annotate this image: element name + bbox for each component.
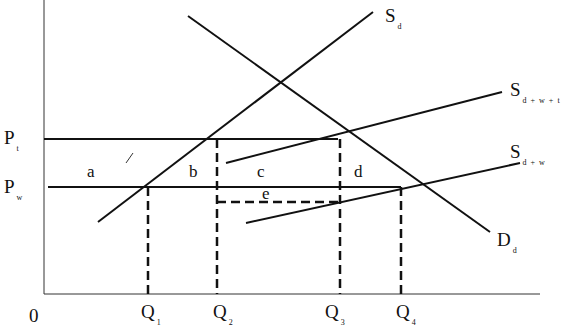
area-label-b: b bbox=[189, 163, 198, 180]
area-label-a: a bbox=[87, 163, 95, 180]
label-q4: Q4 bbox=[396, 302, 417, 321]
tariff-diagram: Sd Sd + w + t Sd + w Dd Pt Pw 0 Q1 Q2 Q3… bbox=[0, 0, 562, 327]
area-label-d: d bbox=[354, 163, 363, 180]
curve-supply-dwt bbox=[226, 92, 502, 163]
label-origin: 0 bbox=[29, 306, 39, 325]
label-q1: Q1 bbox=[141, 302, 162, 321]
stray-mark bbox=[126, 153, 133, 163]
curve-supply-dw bbox=[246, 163, 520, 223]
label-pw: Pw bbox=[4, 177, 23, 196]
area-label-c: c bbox=[257, 163, 265, 180]
curve-domestic-supply bbox=[98, 12, 373, 222]
label-supply-dw: Sd + w bbox=[510, 142, 546, 161]
label-domestic-supply: Sd bbox=[385, 6, 403, 25]
label-q3: Q3 bbox=[325, 302, 346, 321]
label-q2: Q2 bbox=[213, 302, 234, 321]
area-label-e: e bbox=[262, 185, 270, 202]
diagram-canvas bbox=[0, 0, 562, 327]
label-domestic-demand: Dd bbox=[497, 230, 518, 249]
label-supply-dwt: Sd + w + t bbox=[510, 80, 561, 99]
label-pt: Pt bbox=[4, 128, 20, 147]
